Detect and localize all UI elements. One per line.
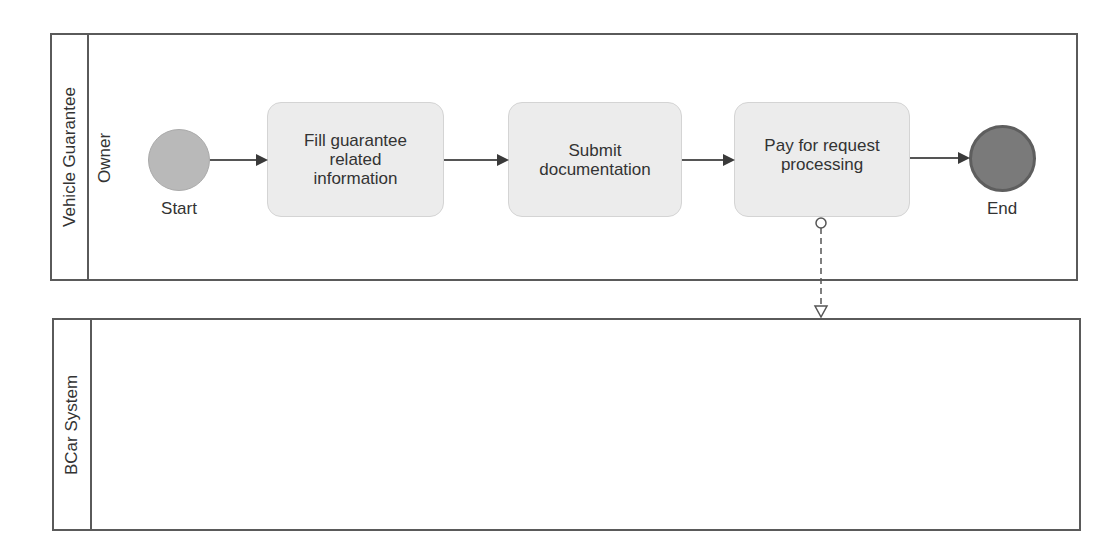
end-event[interactable] — [969, 125, 1036, 192]
task-label: Submit documentation — [520, 141, 670, 179]
pool-header: BCar System — [54, 320, 92, 529]
pool-header: Vehicle Guarantee — [52, 35, 89, 279]
start-event[interactable] — [148, 129, 210, 191]
start-event-label: Start — [139, 199, 219, 219]
task-fill-guarantee-info[interactable]: Fill guarantee related information — [267, 102, 444, 217]
pool-label: Vehicle Guarantee — [60, 87, 80, 227]
end-event-label: End — [962, 199, 1042, 219]
task-submit-documentation[interactable]: Submit documentation — [508, 102, 682, 217]
task-pay-request-processing[interactable]: Pay for request processing — [734, 102, 910, 217]
pool-label: BCar System — [62, 374, 82, 474]
task-label: Fill guarantee related information — [291, 131, 421, 188]
lane-label-owner: Owner — [95, 133, 115, 183]
pool-bcar-system[interactable]: BCar System — [52, 318, 1081, 531]
task-label: Pay for request processing — [747, 136, 897, 174]
